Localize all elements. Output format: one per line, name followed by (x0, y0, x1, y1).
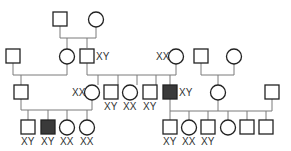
female-unaffected-III-7 (211, 85, 226, 100)
genotype-label-III-4: XX (123, 101, 137, 112)
genotype-label-IV-2: XY (41, 136, 55, 147)
male-unaffected-III-1 (14, 85, 28, 99)
generation-2: XY XX (6, 49, 242, 64)
female-unaffected-I-2 (89, 12, 104, 27)
male-unaffected-IV-1 (21, 120, 35, 134)
genotype-label-IV-5: XY (163, 136, 177, 147)
female-unaffected-IV-4 (80, 120, 95, 135)
generation-1 (53, 12, 104, 27)
male-unaffected-IV-5 (163, 120, 177, 134)
genotype-label-III-5: XY (143, 101, 157, 112)
female-unaffected-III-2 (85, 85, 100, 100)
male-unaffected-II-3 (80, 49, 94, 63)
female-unaffected-II-4 (169, 49, 184, 64)
male-unaffected-IV-10 (259, 120, 273, 134)
pedigree-chart: XY XX XX XY XX XY XY XY XY XX XX XY XX (0, 0, 291, 151)
male-unaffected-III-3 (104, 85, 118, 99)
female-unaffected-II-6 (227, 49, 242, 64)
male-unaffected-II-1 (6, 49, 20, 63)
female-unaffected-III-4 (123, 85, 138, 100)
male-unaffected-IV-9 (240, 120, 254, 134)
female-unaffected-IV-6 (182, 120, 197, 135)
genotype-label-III-6: XY (179, 87, 193, 98)
male-unaffected-III-8 (265, 85, 279, 99)
generation-4: XY XY XX XX XY XX XY (21, 120, 273, 147)
male-affected-III-6 (163, 85, 177, 99)
generation-3: XX XY XX XY XY (14, 85, 279, 112)
genotype-label-IV-4: XX (80, 136, 94, 147)
genotype-label-IV-3: XX (60, 136, 74, 147)
genotype-label-II-3: XY (96, 51, 110, 62)
genotype-label-III-2: XX (72, 87, 86, 98)
genotype-label-II-4: XX (156, 51, 170, 62)
male-unaffected-II-5 (194, 49, 208, 63)
genotype-label-IV-1: XY (21, 136, 35, 147)
genotype-label-III-3: XY (104, 101, 118, 112)
male-affected-IV-2 (41, 120, 55, 134)
male-unaffected-III-5 (143, 85, 157, 99)
female-unaffected-IV-3 (60, 120, 75, 135)
male-unaffected-I-1 (53, 12, 67, 26)
female-unaffected-IV-8 (221, 120, 236, 135)
genotype-label-IV-6: XX (182, 136, 196, 147)
genotype-label-IV-7: XY (201, 136, 215, 147)
female-unaffected-II-2 (60, 49, 75, 64)
male-unaffected-IV-7 (201, 120, 215, 134)
